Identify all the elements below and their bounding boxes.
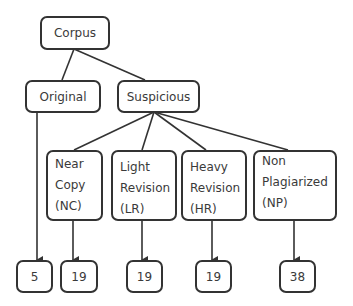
- count-value: 19: [206, 270, 221, 284]
- count-near-copy: 19: [60, 260, 98, 293]
- node-label-line: Light: [120, 157, 150, 178]
- node-suspicious: Suspicious: [117, 80, 200, 113]
- count-light-revision: 19: [126, 260, 163, 293]
- count-value: 19: [71, 270, 86, 284]
- node-original: Original: [25, 80, 101, 113]
- node-corpus: Corpus: [40, 16, 110, 50]
- node-label: Corpus: [54, 26, 96, 40]
- count-value: 5: [31, 270, 39, 284]
- node-label-line: (HR): [190, 199, 217, 220]
- count-value: 38: [290, 270, 305, 284]
- count-heavy-revision: 19: [195, 260, 232, 293]
- node-light-revision: Light Revision (LR): [111, 150, 177, 221]
- node-near-copy: Near Copy (NC): [46, 150, 103, 221]
- node-label-line: Revision: [190, 178, 240, 199]
- node-heavy-revision: Heavy Revision (HR): [181, 150, 247, 221]
- node-label-line: Near: [55, 154, 84, 175]
- node-label: Original: [40, 90, 87, 104]
- node-label-line: (LR): [120, 199, 144, 220]
- count-value: 19: [137, 270, 152, 284]
- node-label: Suspicious: [127, 90, 191, 104]
- node-label-line: (NP): [262, 193, 288, 214]
- node-label-line: Heavy: [190, 157, 228, 178]
- node-label-line: Non: [262, 151, 286, 172]
- node-non-plagiarized: Non Plagiarized (NP): [253, 150, 337, 221]
- node-label-line: (NC): [55, 196, 82, 217]
- node-label-line: Copy: [55, 175, 85, 196]
- node-label-line: Plagiarized: [262, 172, 328, 193]
- count-non-plagiarized: 38: [279, 260, 316, 293]
- count-original: 5: [16, 260, 53, 293]
- node-label-line: Revision: [120, 178, 170, 199]
